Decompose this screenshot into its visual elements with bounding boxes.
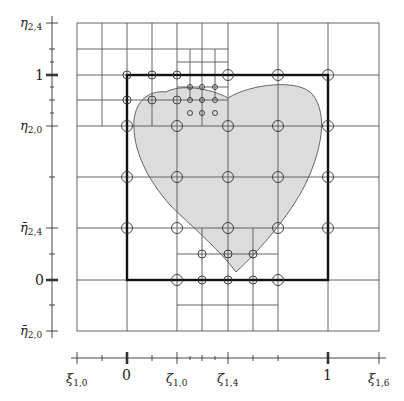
label-one-y: 1	[35, 67, 44, 83]
bottom-axis-labels: ξ1,0 0 ζ1,0 ζ1,4 1 ξ1,6	[66, 367, 390, 388]
label-etabar-2-0: η̄2,0	[20, 323, 42, 340]
label-xi-1-0: ξ1,0	[66, 371, 88, 388]
label-zeta-1-4: ζ1,4	[217, 371, 239, 388]
label-xi-1-6: ξ1,6	[368, 371, 390, 388]
label-eta-2-0: η2,0	[20, 118, 42, 135]
label-etabar-2-4: η̄2,4	[20, 220, 42, 237]
label-eta-2-4: η2,4	[20, 15, 42, 32]
left-axis	[46, 16, 58, 338]
mesh-diagram: η2,4 1 η2,0 η̄2,4 0 η̄2,0 ξ1,0 0 ζ1,0 ζ1…	[0, 0, 404, 401]
left-axis-labels: η2,4 1 η2,0 η̄2,4 0 η̄2,0	[20, 15, 44, 340]
bottom-axis	[71, 352, 386, 364]
label-zeta-1-0: ζ1,0	[166, 371, 188, 388]
label-zero-y: 0	[35, 272, 44, 288]
label-one-x: 1	[323, 367, 332, 383]
label-zero-x: 0	[122, 367, 131, 383]
